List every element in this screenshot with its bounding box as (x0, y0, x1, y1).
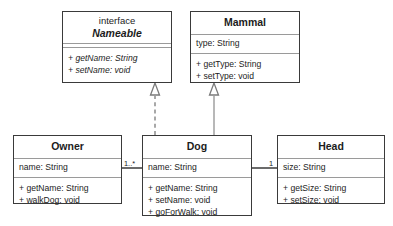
connector-dog-extends-mammal (210, 83, 219, 135)
operations-compartment-owner: + getName: String + walkDog: void (14, 178, 121, 210)
attributes-compartment-dog: name: String (143, 159, 251, 178)
class-header-mammal: Mammal (191, 12, 299, 34)
operations-compartment-mammal: + getType: String + setType: void (191, 54, 299, 86)
multiplicity-owner-dog: 1..* (124, 159, 135, 168)
attribute-item: size: String (283, 162, 379, 174)
class-box-mammal[interactable]: Mammal type: String + getType: String + … (190, 11, 300, 83)
class-header-nameable: interface Nameable (63, 12, 171, 43)
operation-item: + getSize: String (283, 183, 379, 195)
uml-class-diagram: Nameable : dashed realization --> Mammal… (0, 0, 393, 226)
class-header-dog: Dog (143, 136, 251, 158)
operation-item: + setName: void (148, 195, 246, 207)
attributes-compartment-owner: name: String (14, 159, 121, 178)
multiplicity-dog-head: 1 (269, 159, 273, 168)
operation-item: + getType: String (196, 59, 294, 71)
divider (63, 43, 171, 44)
class-name-nameable: Nameable (67, 27, 167, 40)
operation-item: + setType: void (196, 71, 294, 83)
operation-item: + getName: String (68, 53, 166, 65)
class-header-head: Head (278, 136, 384, 158)
operation-item: + getName: String (19, 183, 116, 195)
attribute-item: type: String (196, 38, 294, 50)
class-box-dog[interactable]: Dog name: String + getName: String + set… (142, 135, 252, 216)
class-name-owner: Owner (18, 140, 117, 153)
class-name-head: Head (282, 140, 380, 153)
attribute-item: name: String (148, 162, 246, 174)
operations-compartment-dog: + getName: String + setName: void + goFo… (143, 178, 251, 222)
operation-item: + walkDog: void (19, 195, 116, 207)
operation-item: + setSize: void (283, 195, 379, 207)
class-name-mammal: Mammal (195, 16, 295, 29)
operation-item: + setName: void (68, 65, 166, 77)
hollow-triangle-icon (151, 83, 160, 95)
class-header-owner: Owner (14, 136, 121, 158)
connector-dog-realizes-nameable (151, 83, 160, 135)
operation-item: + goForWalk: void (148, 207, 246, 219)
class-name-dog: Dog (147, 140, 247, 153)
class-box-owner[interactable]: Owner name: String + getName: String + w… (13, 135, 122, 204)
class-box-nameable[interactable]: interface Nameable + getName: String + s… (62, 11, 172, 83)
operations-compartment-nameable: + getName: String + setName: void (63, 48, 171, 80)
attributes-compartment-head: size: String (278, 159, 384, 178)
stereotype-label-nameable: interface (67, 15, 167, 27)
operation-item: + getName: String (148, 183, 246, 195)
attributes-compartment-mammal: type: String (191, 35, 299, 54)
attribute-item: name: String (19, 162, 116, 174)
class-box-head[interactable]: Head size: String + getSize: String + se… (277, 135, 385, 204)
operations-compartment-head: + getSize: String + setSize: void (278, 178, 384, 210)
